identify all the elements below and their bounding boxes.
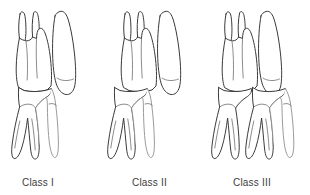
class-2-label: Class II	[132, 177, 167, 188]
dental-classification-figure: Class I Class II	[0, 0, 310, 195]
upper-premolar-class-2	[158, 11, 181, 94]
upper-premolar-class-3	[259, 11, 282, 94]
panel-class-1: Class I	[12, 11, 76, 188]
panel-class-2: Class II	[108, 11, 181, 188]
upper-molar-class-2	[121, 12, 156, 92]
upper-premolar-class-1	[53, 11, 76, 94]
upper-molar-class-1	[16, 12, 51, 92]
panel-class-3: Class III	[212, 11, 294, 188]
upper-molar-class-3	[222, 12, 257, 92]
class-1-label: Class I	[22, 177, 54, 188]
class-3-label: Class III	[233, 177, 271, 188]
